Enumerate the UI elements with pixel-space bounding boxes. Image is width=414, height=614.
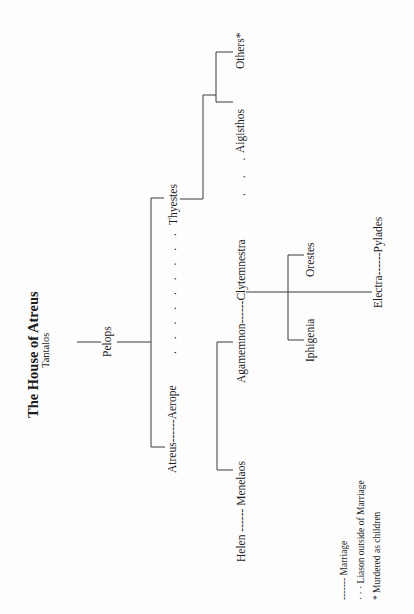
person-iphigenia: Iphigenia bbox=[305, 319, 317, 362]
thyestes-children-line bbox=[180, 95, 216, 199]
liason-aerope-thyestes: . . . . . . . . . bbox=[167, 229, 179, 354]
couple-helen-menelaos: Helen ------ Menelaos bbox=[236, 461, 248, 562]
person-orestes: Orestes bbox=[305, 243, 317, 278]
person-aigisthos: Aigisthos bbox=[235, 109, 247, 153]
family-tree-diagram: The House of Atreus Tantalos Pelops Atre… bbox=[0, 0, 414, 614]
couple-atreus-aerope: Atreus------Aerope bbox=[167, 386, 179, 473]
legend-murdered: * Murdered as children bbox=[373, 512, 383, 600]
person-thyestes: Thyestes bbox=[168, 184, 180, 225]
legend-liason: · · · Liason outside of Marriage bbox=[357, 480, 367, 600]
person-pelops: Pelops bbox=[102, 326, 114, 357]
liason-clytemnestra-aigisthos: . . . bbox=[236, 152, 248, 196]
agamemnon-children-bracket bbox=[288, 255, 304, 340]
tree-connector-lines bbox=[0, 0, 414, 614]
atreus-children-bracket bbox=[217, 342, 233, 470]
person-others: Others* bbox=[235, 33, 247, 69]
couple-electra-pylades: Electra------Pylades bbox=[373, 217, 385, 308]
thyestes-children-bracket bbox=[216, 52, 233, 102]
page-title: The House of Atreus bbox=[26, 291, 41, 418]
pelops-children-bracket bbox=[151, 198, 165, 447]
ancestor-tantalos: Tantalos bbox=[41, 333, 52, 368]
legend-marriage: ------- Marriage bbox=[340, 541, 350, 600]
couple-agamemnon-clytemnestra: Agamemnon------Clytemnestra bbox=[236, 239, 248, 383]
